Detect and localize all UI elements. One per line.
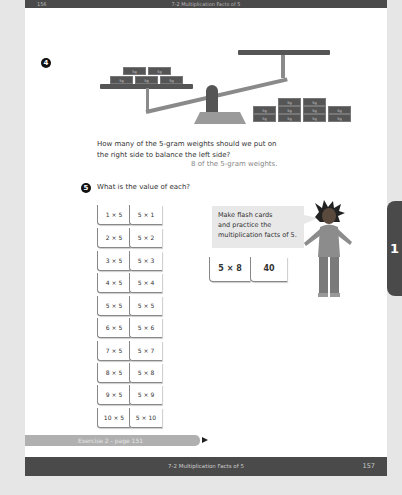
weight-5g: 5g — [278, 114, 301, 122]
weight-5g: 5g — [328, 106, 351, 114]
flash-card: 4 × 5 — [97, 273, 130, 293]
right-arm — [281, 54, 285, 78]
flash-card: 3 × 5 — [97, 251, 130, 271]
weight-5g: 5g — [110, 76, 133, 84]
weight-5g: 5g — [278, 106, 301, 114]
flash-card: 8 × 5 — [97, 363, 130, 383]
fulcrum — [206, 85, 218, 112]
flash-card: 5 × 5 — [129, 296, 162, 316]
flash-card: 7 × 5 — [97, 341, 130, 361]
flash-card: 2 × 5 — [97, 228, 130, 248]
footer-bar: 7-2 Multiplication Facts of 5 157 — [25, 457, 387, 476]
weight-5g: 5g — [148, 67, 171, 75]
play-arrow-icon[interactable] — [202, 437, 208, 443]
weight-5g: 5g — [303, 106, 326, 114]
question-4-answer: 8 of the 5-gram weights. — [191, 160, 277, 168]
right-tray — [238, 50, 330, 55]
flash-card: 5 × 7 — [129, 341, 162, 361]
flash-card: 5 × 10 — [129, 408, 162, 428]
footer-title: 7-2 Multiplication Facts of 5 — [25, 457, 387, 476]
scale-base — [194, 112, 246, 124]
header-bar: 156 7-2 Multiplication Facts of 5 — [25, 0, 387, 8]
weight-5g: 5g — [123, 67, 146, 75]
speech-line3: multiplication facts of 5. — [218, 230, 298, 240]
flash-card: 5 × 1 — [129, 205, 162, 225]
flash-card: 1 × 5 — [97, 205, 130, 225]
weight-5g: 5g — [303, 114, 326, 122]
speech-line1: Make flash cards — [218, 210, 298, 220]
weight-5g: 5g — [278, 98, 301, 106]
weight-5g: 5g — [253, 114, 276, 122]
flash-card: 5 × 2 — [129, 228, 162, 248]
flash-card: 5 × 8 — [129, 363, 162, 383]
weight-5g: 5g — [135, 76, 158, 84]
question-4-number: 4 — [41, 58, 51, 68]
weight-5g: 5g — [328, 114, 351, 122]
flash-card: 5 × 5 — [97, 296, 130, 316]
exercise-link[interactable]: Exercise 2 - page 151 — [25, 435, 200, 446]
footer-page-number: 157 — [363, 457, 375, 476]
chapter-tab: 1 — [387, 201, 402, 296]
speech-line2: and practice the — [218, 220, 298, 230]
flash-card: 6 × 5 — [97, 318, 130, 338]
weight-5g: 5g — [303, 98, 326, 106]
flash-card: 9 × 5 — [97, 385, 130, 405]
flash-card: 10 × 5 — [97, 408, 130, 428]
flash-card: 5 × 4 — [129, 273, 162, 293]
weight-5g: 5g — [253, 106, 276, 114]
flash-card: 5 × 3 — [129, 251, 162, 271]
question-5-text: What is the value of each? — [97, 182, 190, 193]
child-character-icon — [300, 200, 360, 300]
question-5-number: 5 — [81, 183, 91, 193]
flash-card: 5 × 9 — [129, 385, 162, 405]
flash-card: 5 × 6 — [129, 318, 162, 338]
example-card-front: 5 × 8 — [209, 257, 250, 282]
speech-bubble: Make flash cards and practice the multip… — [212, 206, 304, 248]
weight-5g: 5g — [160, 76, 183, 84]
question-4-text-line1: How many of the 5-gram weights should we… — [97, 139, 276, 150]
header-title: 7-2 Multiplication Facts of 5 — [25, 0, 387, 8]
example-card-back: 40 — [250, 257, 287, 282]
